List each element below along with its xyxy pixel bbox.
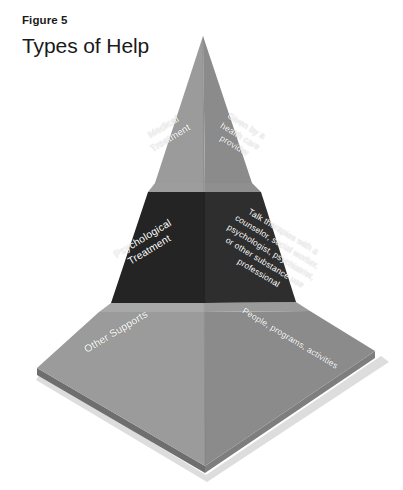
pyramid-diagram: Medical Treatment Given by a health care… <box>0 0 403 490</box>
tier-bottom-right-face <box>205 311 375 466</box>
tier-middle-top-band-right <box>205 183 261 192</box>
pyramid-graphic <box>0 0 403 490</box>
tier-top-left-face <box>155 36 205 183</box>
tier-middle-top-band-left <box>148 183 205 192</box>
tier-top-right-face <box>203 36 252 183</box>
tier-middle-right-face <box>205 192 296 303</box>
tier-bottom-top-band-left <box>99 303 205 312</box>
figure-card: Figure 5 Types of Help <box>0 0 403 490</box>
tier-bottom-top-band-right <box>205 302 310 312</box>
tier-middle-left-face <box>111 192 205 303</box>
